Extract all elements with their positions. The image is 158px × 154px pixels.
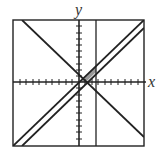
- y-axis-label: y: [75, 1, 82, 19]
- x-axis-label: x: [148, 73, 155, 91]
- graph: [0, 0, 158, 154]
